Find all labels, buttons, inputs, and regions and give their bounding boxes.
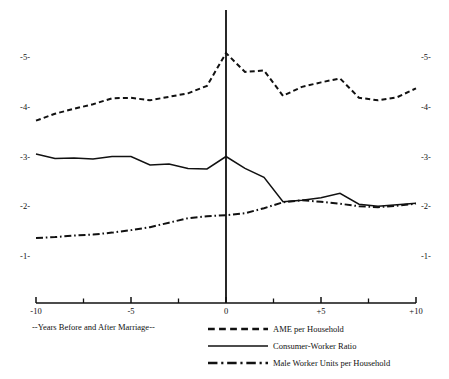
y-axis-tick-label-left: -4- (20, 102, 30, 112)
y-axis-tick-label-left: -5- (20, 52, 30, 62)
y-axis-tick-label-right: -5- (421, 52, 431, 62)
y-axis-tick-label-left: -2- (20, 201, 30, 211)
legend-label-2: Consumer-Worker Ratio (273, 341, 356, 351)
x-axis-tick-label: -5 (127, 306, 134, 316)
x-axis-tick-label: +10 (409, 306, 422, 316)
x-axis-tick-label: 0 (224, 306, 228, 316)
chart-legend: AME per HouseholdConsumer-Worker RatioMa… (208, 324, 391, 368)
y-axis-tick-label-right: -1- (421, 251, 431, 261)
y-axis-tick-labels-left: -5--4--3--2--1- (20, 52, 30, 261)
x-axis-tick-label: -10 (30, 306, 41, 316)
y-axis-tick-label-left: -3- (20, 152, 30, 162)
legend-label-1: AME per Household (273, 324, 345, 334)
y-axis-tick-label-right: -4- (421, 102, 431, 112)
line-chart-canvas: -10-50+5+10 -5--4--3--2--1- -5--4--3--2-… (0, 0, 449, 379)
chart-figure: -10-50+5+10 -5--4--3--2--1- -5--4--3--2-… (0, 0, 449, 379)
x-axis-tick-label: +5 (316, 306, 325, 316)
legend-label-3: Male Worker Units per Household (273, 358, 391, 368)
x-axis-tick-labels: -10-50+5+10 (30, 306, 422, 316)
y-axis-tick-labels-right: -5--4--3--2--1- (421, 52, 431, 261)
y-axis-tick-label-right: -3- (421, 152, 431, 162)
y-axis-tick-label-right: -2- (421, 201, 431, 211)
x-axis-caption: --Years Before and After Marriage-- (32, 322, 155, 332)
x-axis-ticks (36, 297, 416, 303)
y-axis-tick-label-left: -1- (20, 251, 30, 261)
